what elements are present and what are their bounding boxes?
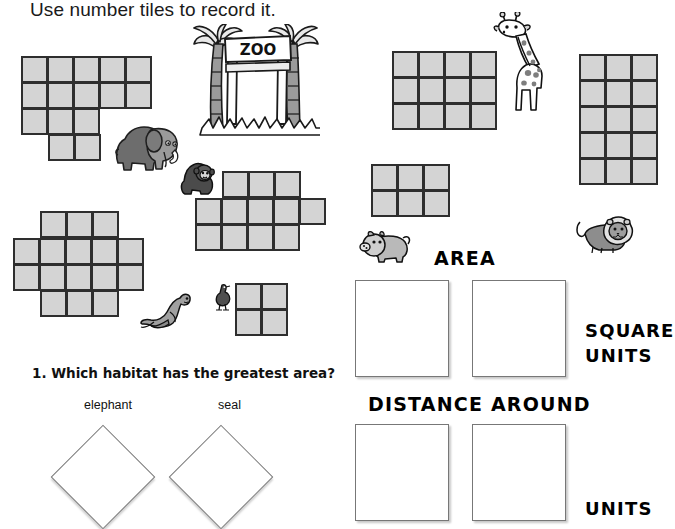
grid-cell — [397, 190, 424, 217]
grid-cell — [39, 238, 66, 265]
page-title: Use number tiles to record it. — [30, 0, 276, 21]
gorilla-clipart — [180, 161, 216, 197]
grid-cell — [418, 103, 445, 130]
grid-row — [22, 83, 152, 109]
grid-cell — [631, 106, 658, 133]
grid-cell — [631, 80, 658, 107]
grid-cell — [274, 171, 301, 198]
grid-row — [196, 199, 326, 225]
grid-cell — [392, 77, 419, 104]
grid-cell — [579, 80, 606, 107]
grid-cell — [73, 56, 100, 83]
grid-cell — [47, 108, 74, 135]
grid-cell — [13, 264, 40, 291]
grid-cell — [444, 51, 471, 78]
grid-cell — [631, 54, 658, 81]
grid-cell — [99, 82, 126, 109]
grid-cell — [195, 224, 222, 251]
perimeter-answer-box-1[interactable] — [355, 424, 449, 521]
grid-row — [393, 104, 497, 130]
square-units-label-line2: UNITS — [585, 345, 653, 366]
grid-cell — [99, 56, 126, 83]
grid-cell — [392, 103, 419, 130]
perimeter-answer-box-2[interactable] — [472, 424, 566, 521]
grid-cell — [221, 224, 248, 251]
grid-row — [196, 225, 326, 251]
seal-clipart — [140, 290, 192, 332]
grid-row — [14, 239, 144, 265]
grid-cell — [235, 309, 262, 336]
question-1-text: 1. Which habitat has the greatest area? — [32, 365, 335, 381]
grid-row — [580, 133, 658, 159]
ostrich-clipart — [213, 283, 233, 312]
grid-cell — [66, 290, 93, 317]
grid-cell — [91, 264, 118, 291]
grid-cell — [605, 132, 632, 159]
grid-cell — [221, 198, 248, 225]
grid-cell — [39, 264, 66, 291]
grid-cell — [48, 134, 75, 161]
grid-cell — [579, 132, 606, 159]
grid-row — [372, 191, 450, 217]
grid-cell — [605, 54, 632, 81]
grid-row — [393, 52, 497, 78]
grid-cell — [117, 264, 144, 291]
grid-cell — [65, 238, 92, 265]
grid-cell — [299, 198, 326, 225]
grid-cell — [248, 171, 275, 198]
grid-row — [14, 291, 144, 318]
giraffe-clipart — [493, 12, 543, 114]
lion-habitat-grid — [580, 55, 658, 185]
grid-cell — [273, 198, 300, 225]
grid-cell — [247, 198, 274, 225]
grid-cell — [631, 158, 658, 185]
grid-row — [236, 284, 288, 310]
grid-cell — [74, 134, 101, 161]
seal-habitat-grid — [14, 212, 144, 318]
grid-cell — [40, 290, 67, 317]
grid-cell — [397, 164, 424, 191]
grid-cell — [579, 54, 606, 81]
grid-cell — [117, 238, 144, 265]
grid-cell — [125, 56, 152, 83]
grid-row — [393, 78, 497, 104]
pig-clipart — [359, 228, 411, 264]
grid-cell — [273, 224, 300, 251]
grid-cell — [222, 171, 249, 198]
ostrich-habitat-grid — [236, 284, 288, 336]
choice-label-elephant: elephant — [84, 398, 132, 412]
zoo-entrance-gate: ZOO — [192, 24, 320, 139]
grid-cell — [605, 80, 632, 107]
grid-cell — [66, 211, 93, 238]
pig-habitat-grid — [372, 165, 450, 217]
grid-cell — [21, 82, 48, 109]
grid-spacer — [14, 291, 41, 318]
grid-cell — [371, 190, 398, 217]
grid-spacer — [14, 212, 41, 239]
grid-row — [372, 165, 450, 191]
perimeter-units-label: UNITS — [585, 498, 653, 519]
grid-cell — [195, 198, 222, 225]
grid-row — [14, 265, 144, 291]
grid-cell — [418, 51, 445, 78]
grid-row — [236, 310, 288, 336]
choice-diamond-elephant[interactable] — [51, 425, 156, 529]
grid-cell — [605, 158, 632, 185]
grid-cell — [73, 108, 100, 135]
grid-cell — [21, 108, 48, 135]
area-answer-box-1[interactable] — [355, 280, 449, 377]
grid-row — [22, 57, 152, 83]
grid-cell — [65, 264, 92, 291]
grid-row — [580, 159, 658, 185]
area-answer-box-2[interactable] — [472, 280, 566, 377]
grid-cell — [247, 224, 274, 251]
grid-row — [580, 81, 658, 107]
grid-cell — [91, 238, 118, 265]
grid-cell — [605, 106, 632, 133]
choice-diamond-seal[interactable] — [169, 425, 274, 529]
grid-row — [14, 212, 144, 239]
lion-clipart — [575, 214, 635, 254]
giraffe-habitat-grid — [393, 52, 497, 130]
grid-cell — [418, 77, 445, 104]
grid-cell — [125, 82, 152, 109]
